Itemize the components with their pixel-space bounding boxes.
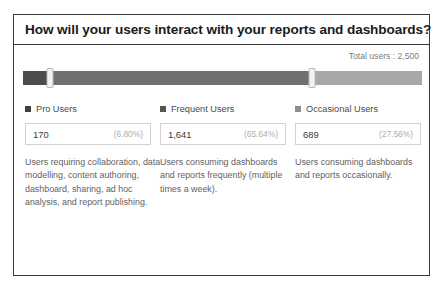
- user-interaction-panel: How will your users interact with your r…: [13, 14, 430, 276]
- value-input-pro-users[interactable]: 170 (6.80%): [25, 123, 151, 145]
- column-frequent-users: Frequent Users 1,641 (65.64%) Users cons…: [160, 103, 286, 196]
- user-distribution-slider[interactable]: [23, 71, 422, 85]
- panel-title-bar: How will your users interact with your r…: [14, 15, 429, 45]
- value-number: 170: [33, 129, 49, 140]
- slider-segment-occasional-users: [312, 71, 422, 85]
- value-input-frequent-users[interactable]: 1,641 (65.64%): [160, 123, 286, 145]
- slider-segment-frequent-users: [50, 71, 312, 85]
- slider-handle-1[interactable]: [47, 68, 54, 88]
- page-title: How will your users interact with your r…: [14, 22, 431, 37]
- total-users-label: Total users : 2,500: [349, 51, 419, 61]
- legend-row: Pro Users: [25, 103, 151, 115]
- value-number: 1,641: [168, 129, 191, 140]
- slider-handle-2[interactable]: [309, 68, 316, 88]
- legend-label: Occasional Users: [306, 104, 378, 114]
- legend-label: Pro Users: [36, 104, 77, 114]
- value-percent: (27.56%): [379, 129, 413, 139]
- value-input-occasional-users[interactable]: 689 (27.56%): [295, 123, 421, 145]
- column-description: Users consuming dashboards and reports f…: [160, 156, 286, 196]
- column-description: Users consuming dashboards and reports o…: [295, 156, 421, 183]
- legend-row: Frequent Users: [160, 103, 286, 115]
- legend-swatch-icon: [25, 106, 31, 112]
- column-description: Users requiring collaboration, data mode…: [25, 156, 161, 209]
- value-percent: (65.64%): [244, 129, 278, 139]
- column-occasional-users: Occasional Users 689 (27.56%) Users cons…: [295, 103, 421, 183]
- value-percent: (6.80%): [114, 129, 143, 139]
- legend-label: Frequent Users: [171, 104, 234, 114]
- column-pro-users: Pro Users 170 (6.80%) Users requiring co…: [25, 103, 151, 209]
- value-number: 689: [303, 129, 319, 140]
- legend-row: Occasional Users: [295, 103, 421, 115]
- slider-track: [23, 71, 422, 85]
- legend-swatch-icon: [295, 106, 301, 112]
- legend-swatch-icon: [160, 106, 166, 112]
